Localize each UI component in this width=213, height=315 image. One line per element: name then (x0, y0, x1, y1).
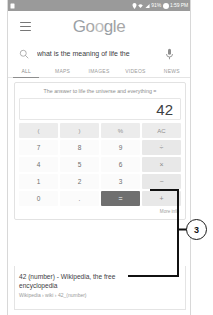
app-notification-icon (10, 3, 15, 9)
search-icon (19, 49, 29, 59)
key-8[interactable]: 8 (60, 140, 99, 155)
search-result[interactable]: 42 (number) - Wikipedia, the free encycl… (14, 272, 186, 299)
key-7[interactable]: 7 (19, 140, 58, 155)
tab-news[interactable]: NEWS (154, 68, 190, 74)
clock-label: 1:59 PM (170, 3, 188, 8)
annotation-marker-3: 3 (186, 219, 207, 240)
key-3[interactable]: 3 (101, 174, 140, 189)
battery-percent-label: 91% (151, 3, 161, 8)
calculator-display: 42 (19, 98, 181, 120)
tab-all[interactable]: ALL (8, 68, 44, 74)
key-multiply[interactable]: × (142, 157, 181, 172)
google-logo: Google (8, 17, 190, 37)
calculator-result: 42 (156, 101, 173, 118)
key-9[interactable]: 9 (101, 140, 140, 155)
wifi-icon (138, 3, 143, 9)
key-close-paren[interactable]: ) (60, 123, 99, 138)
status-bar-right: 91% 1:59 PM (132, 3, 188, 9)
microphone-icon[interactable] (165, 48, 174, 60)
key-decimal[interactable]: . (60, 191, 99, 206)
key-0[interactable]: 0 (19, 191, 58, 206)
key-4[interactable]: 4 (19, 157, 58, 172)
more-info-link[interactable]: More info (19, 208, 181, 216)
search-input[interactable]: what is the meaning of life the (37, 48, 159, 59)
active-tab-indicator (13, 77, 39, 79)
status-bar: 91% 1:59 PM (8, 0, 190, 11)
tab-maps[interactable]: MAPS (44, 68, 80, 74)
calculator-expression: The answer to life the universe and ever… (19, 87, 181, 96)
search-bar[interactable]: what is the meaning of life the (8, 44, 190, 64)
location-icon (132, 3, 137, 9)
battery-icon (163, 3, 169, 9)
key-1[interactable]: 1 (19, 174, 58, 189)
signal-icon (145, 3, 150, 9)
google-header: Google (8, 11, 190, 44)
result-url: Wikipedia › wiki › 42_(number) (19, 292, 181, 299)
key-divide[interactable]: ÷ (142, 140, 181, 155)
key-2[interactable]: 2 (60, 174, 99, 189)
status-bar-left (10, 3, 15, 9)
key-open-paren[interactable]: ( (19, 123, 58, 138)
key-minus[interactable]: − (142, 174, 181, 189)
key-plus[interactable]: + (142, 191, 181, 206)
result-title[interactable]: 42 (number) - Wikipedia, the free encycl… (19, 272, 139, 290)
tab-videos[interactable]: VIDEOS (117, 68, 153, 74)
key-6[interactable]: 6 (101, 157, 140, 172)
calculator-keypad: ( ) % AC 7 8 9 ÷ 4 5 6 × 1 2 3 − 0 . = + (19, 123, 181, 206)
key-5[interactable]: 5 (60, 157, 99, 172)
calculator-card: The answer to life the universe and ever… (14, 82, 186, 220)
key-all-clear[interactable]: AC (142, 123, 181, 138)
screenshot-root: 91% 1:59 PM Google what is the meaning (0, 0, 213, 315)
key-percent[interactable]: % (101, 123, 140, 138)
phone-screen: 91% 1:59 PM Google what is the meaning (7, 0, 191, 315)
tab-images[interactable]: IMAGES (81, 68, 117, 74)
key-equals[interactable]: = (101, 191, 140, 206)
